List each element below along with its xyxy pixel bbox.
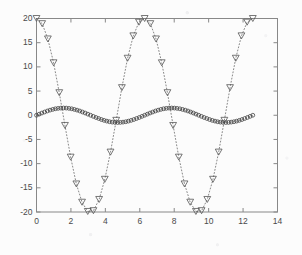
y-tick-label: -20 <box>3 208 33 217</box>
marker-triangle-down <box>118 85 125 91</box>
marker-triangle-down <box>238 33 245 39</box>
marker-triangle-down <box>232 55 239 61</box>
y-tick-label: -5 <box>3 135 33 144</box>
x-tick-label: 4 <box>93 217 117 226</box>
data-series-layer <box>33 16 256 215</box>
marker-triangle-down <box>73 181 80 187</box>
x-tick-label: 0 <box>25 217 49 226</box>
y-tick-label: -10 <box>3 159 33 168</box>
y-tick-label: 20 <box>3 14 33 23</box>
marker-triangle-down <box>79 199 86 205</box>
figure-canvas: 02468101214-20-15-10-505101520 <box>0 0 302 255</box>
marker-triangle-down <box>204 196 211 202</box>
axis-ticks <box>37 19 278 213</box>
x-tick-label: 6 <box>128 217 152 226</box>
marker-triangle-down <box>136 19 143 25</box>
marker-triangle-down <box>44 36 51 42</box>
x-tick-label: 2 <box>59 217 83 226</box>
marker-triangle-down <box>56 90 63 96</box>
x-tick-label: 14 <box>266 217 290 226</box>
marker-triangle-down <box>215 149 222 155</box>
axes-box <box>37 19 278 213</box>
x-tick-label: 12 <box>231 217 255 226</box>
series-small-amplitude-sine <box>35 106 255 124</box>
marker-triangle-down <box>192 208 199 214</box>
y-tick-label: 0 <box>3 111 33 120</box>
y-tick-label: 5 <box>3 87 33 96</box>
y-tick-label: -15 <box>3 183 33 192</box>
marker-triangle-down <box>181 181 188 187</box>
y-tick-label: 10 <box>3 62 33 71</box>
marker-triangle-down <box>96 196 103 202</box>
x-tick-label: 10 <box>197 217 221 226</box>
marker-triangle-down <box>164 90 171 96</box>
y-tick-label: 15 <box>3 38 33 47</box>
marker-triangle-down <box>124 55 131 61</box>
marker-triangle-down <box>187 199 194 205</box>
marker-triangle-down <box>170 122 177 128</box>
marker-triangle-down <box>244 19 251 25</box>
x-tick-label: 8 <box>162 217 186 226</box>
